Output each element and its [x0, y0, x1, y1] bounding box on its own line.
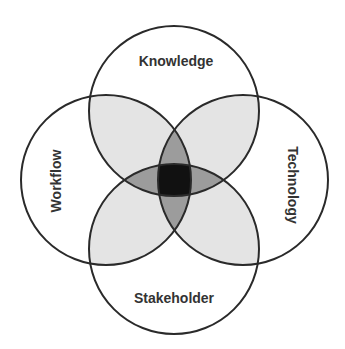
venn-diagram: Knowledge Workflow Technology Stakeholde…	[0, 0, 345, 349]
workflow-label: Workflow	[48, 150, 64, 213]
stakeholder-label: Stakeholder	[134, 290, 215, 306]
technology-label: Technology	[285, 146, 301, 224]
knowledge-label: Knowledge	[139, 53, 214, 69]
